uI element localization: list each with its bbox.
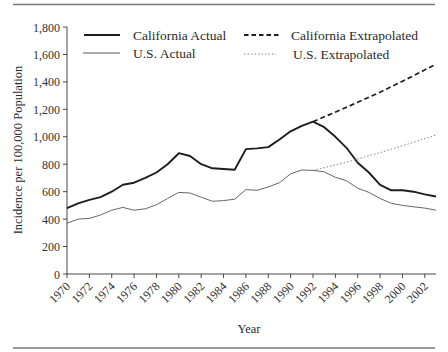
series-u-s-actual xyxy=(67,170,436,223)
x-tick-label: 1986 xyxy=(225,279,252,306)
legend-item-us-extrapolated: U.S. Extrapolated xyxy=(244,47,390,62)
series-california-actual xyxy=(67,122,436,208)
x-tick-label: 1998 xyxy=(359,279,386,306)
legend-label: U.S. Actual xyxy=(133,46,196,61)
y-tick-label: 0 xyxy=(54,268,60,282)
x-tick-label: 2002 xyxy=(404,279,431,306)
x-tick-label: 1976 xyxy=(113,279,140,306)
x-axis: 1970197219741976197819801982198419861988… xyxy=(46,274,436,306)
y-tick-label: 1,000 xyxy=(33,130,60,144)
legend-item-us-actual: U.S. Actual xyxy=(83,46,196,61)
x-tick-label: 1996 xyxy=(337,279,364,306)
y-tick-label: 1,400 xyxy=(33,75,60,89)
x-tick-label: 1974 xyxy=(91,279,118,306)
y-tick-label: 600 xyxy=(42,185,60,199)
plot-area xyxy=(67,64,436,223)
x-tick-label: 1988 xyxy=(248,279,275,306)
y-axis: 02004006008001,0001,2001,4001,6001,800 xyxy=(33,21,67,282)
chart: 02004006008001,0001,2001,4001,6001,800 1… xyxy=(0,0,448,352)
x-tick-label: 1978 xyxy=(136,279,163,306)
x-axis-title: Year xyxy=(237,322,261,336)
x-tick-label: 2000 xyxy=(382,279,409,306)
x-tick-label: 1982 xyxy=(180,279,207,306)
y-tick-label: 1,200 xyxy=(33,103,60,117)
y-axis-title: Incidence per 100,000 Population xyxy=(11,65,25,234)
y-tick-label: 400 xyxy=(42,213,60,227)
x-tick-label: 1972 xyxy=(69,279,96,306)
y-tick-label: 1,600 xyxy=(33,48,60,62)
y-tick-label: 200 xyxy=(42,240,60,254)
legend-item-california-extrapolated: California Extrapolated xyxy=(244,28,418,43)
x-tick-label: 1990 xyxy=(270,279,297,306)
x-tick-label: 1992 xyxy=(292,279,319,306)
legend-item-california-actual: California Actual xyxy=(84,28,227,43)
y-tick-label: 800 xyxy=(42,158,60,172)
x-tick-label: 1980 xyxy=(158,279,185,306)
legend-label: California Actual xyxy=(133,28,227,43)
x-tick-label: 1994 xyxy=(315,279,342,306)
legend: California Actual California Extrapolate… xyxy=(83,28,418,62)
legend-label: U.S. Extrapolated xyxy=(293,47,390,62)
legend-label: California Extrapolated xyxy=(291,28,418,43)
series-u-s-extrapolated xyxy=(313,135,436,170)
y-tick-label: 1,800 xyxy=(33,21,60,35)
x-tick-label: 1984 xyxy=(203,279,230,306)
series-california-extrapolated xyxy=(313,64,436,122)
x-tick-label: 1970 xyxy=(46,279,73,306)
